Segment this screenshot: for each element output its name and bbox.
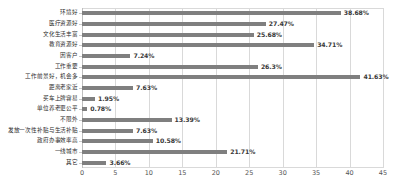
category-tick <box>79 67 82 68</box>
x-axis-ticks: 051015202530354045 <box>82 170 383 184</box>
bar-row: 7.63% <box>82 83 383 94</box>
bar <box>82 161 106 165</box>
bar-row: 7.24% <box>82 51 383 62</box>
x-tick-label-40: 40 <box>345 170 353 177</box>
category-tick <box>79 13 82 14</box>
x-tick-label-25: 25 <box>245 170 253 177</box>
category-label: 单位养老更公平 <box>37 106 78 112</box>
bar-value-label: 3.66% <box>109 160 130 166</box>
category-label: 工作前景好，机会多 <box>25 74 78 80</box>
bar-row: 10.58% <box>82 136 383 147</box>
bar <box>82 118 172 122</box>
bar <box>82 107 87 111</box>
category-label: 环境好 <box>60 10 78 16</box>
category-tick <box>79 163 82 164</box>
category-tick <box>79 109 82 110</box>
bar-row: 1.95% <box>82 93 383 104</box>
bar-value-label: 13.39% <box>175 117 200 123</box>
bar-value-label: 26.3% <box>261 64 282 70</box>
bar-row: 27.47% <box>82 19 383 30</box>
category-tick <box>79 88 82 89</box>
bar-value-label: 25.68% <box>257 32 282 38</box>
bar-row: 38.68% <box>82 8 383 19</box>
bar-row: 7.63% <box>82 125 383 136</box>
bar <box>82 150 227 154</box>
category-label: 医疗资源好 <box>49 21 78 27</box>
x-tick-label-0: 0 <box>80 170 84 177</box>
bar-value-label: 10.58% <box>156 138 181 144</box>
bar <box>82 33 254 37</box>
category-label: 不限外 <box>60 117 78 123</box>
bar <box>82 86 133 90</box>
bar-value-label: 0.78% <box>90 106 111 112</box>
bar-value-label: 7.63% <box>136 85 157 91</box>
x-tick-label-20: 20 <box>212 170 220 177</box>
category-tick <box>79 120 82 121</box>
bar <box>82 139 153 143</box>
category-tick <box>79 24 82 25</box>
category-tick <box>79 131 82 132</box>
bar-value-label: 34.71% <box>317 42 342 48</box>
gridline-45 <box>383 8 384 168</box>
bar-series: 38.68%27.47%25.68%34.71%7.24%26.3%41.63%… <box>82 8 383 168</box>
category-label: 工作重要 <box>55 64 78 70</box>
bar-value-label: 7.24% <box>133 53 154 59</box>
bar-row: 41.63% <box>82 72 383 83</box>
category-tick <box>79 35 82 36</box>
bar <box>82 97 95 101</box>
bar-value-label: 27.47% <box>269 21 294 27</box>
bar <box>82 43 314 47</box>
category-label: 政府办事效率高 <box>37 138 78 144</box>
category-tick <box>79 45 82 46</box>
category-tick <box>79 141 82 142</box>
category-label: 其它 <box>66 160 78 166</box>
category-axis: 环境好医疗资源好文化生活丰富教育资源好因客户工作重要工作前景好，机会多距离老家近… <box>0 8 80 168</box>
category-label: 因客户 <box>60 53 78 59</box>
bar-row: 21.71% <box>82 147 383 158</box>
category-label: 发放一次性补贴与生活补贴 <box>8 128 78 134</box>
bar <box>82 75 360 79</box>
bar-row: 13.39% <box>82 115 383 126</box>
plot-area: 38.68%27.47%25.68%34.71%7.24%26.3%41.63%… <box>82 8 383 168</box>
bar <box>82 129 133 133</box>
bar-value-label: 21.71% <box>230 149 255 155</box>
bar-row: 25.68% <box>82 29 383 40</box>
category-label: 一线城市 <box>55 149 78 155</box>
bar <box>82 11 341 15</box>
category-label: 文化生活丰富 <box>43 32 78 38</box>
x-tick-label-30: 30 <box>279 170 287 177</box>
category-tick <box>79 56 82 57</box>
bar-value-label: 7.63% <box>136 128 157 134</box>
bar-row: 3.66% <box>82 157 383 168</box>
x-tick-label-10: 10 <box>145 170 153 177</box>
bar <box>82 54 130 58</box>
bar-value-label: 41.63% <box>363 74 388 80</box>
x-tick-label-5: 5 <box>113 170 117 177</box>
bar <box>82 22 266 26</box>
x-tick-label-45: 45 <box>379 170 387 177</box>
bar-value-label: 1.95% <box>98 96 119 102</box>
category-label: 买车上牌容易 <box>43 96 78 102</box>
category-label: 距离老家近 <box>49 85 78 91</box>
bar <box>82 65 258 69</box>
category-tick <box>79 77 82 78</box>
bar-value-label: 38.68% <box>344 10 369 16</box>
category-tick <box>79 152 82 153</box>
bar-row: 0.78% <box>82 104 383 115</box>
bar-row: 34.71% <box>82 40 383 51</box>
x-tick-label-15: 15 <box>178 170 186 177</box>
category-tick <box>79 99 82 100</box>
x-tick-label-35: 35 <box>312 170 320 177</box>
bar-row: 26.3% <box>82 61 383 72</box>
bar-chart: 38.68%27.47%25.68%34.71%7.24%26.3%41.63%… <box>0 0 404 196</box>
category-label: 教育资源好 <box>49 42 78 48</box>
